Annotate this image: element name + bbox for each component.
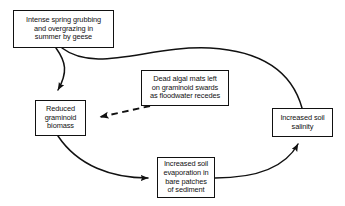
edge-algal-to-graminoid: [100, 106, 150, 117]
node-dead-algal-mats: Dead algal mats left on graminoid swards…: [141, 70, 229, 106]
node-reduced-graminoid-biomass: Reduced graminoid biomass: [35, 100, 86, 136]
diagram-canvas: Intense spring grubbing and overgrazing …: [0, 0, 345, 206]
edge-evaporation-to-salinity: [215, 144, 298, 178]
node-label: Dead algal mats left on graminoid swards…: [148, 75, 222, 101]
node-increased-soil-evaporation: Increased soil evaporation in bare patch…: [157, 157, 215, 198]
node-label: Increased soil evaporation in bare patch…: [161, 160, 210, 195]
node-label: Reduced graminoid biomass: [43, 105, 79, 131]
edge-grubbing-to-graminoid: [56, 48, 65, 90]
node-intense-spring-grubbing: Intense spring grubbing and overgrazing …: [13, 10, 114, 48]
node-label: Increased soil salinity: [278, 114, 326, 131]
edge-graminoid-to-evaporation: [58, 136, 148, 178]
node-increased-soil-salinity: Increased soil salinity: [272, 108, 333, 137]
node-label: Intense spring grubbing and overgrazing …: [24, 16, 103, 42]
